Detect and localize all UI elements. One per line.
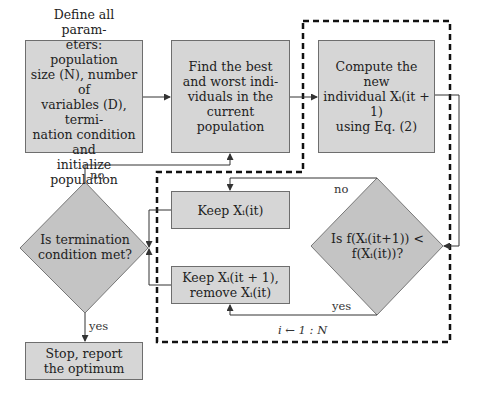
text-line: Keep Xᵢ(it) bbox=[198, 203, 264, 218]
text-line: viduals in the bbox=[176, 89, 285, 104]
no-label-compare: no bbox=[334, 182, 348, 196]
text-line: initialize population bbox=[30, 157, 138, 187]
text-line: Is termination bbox=[25, 232, 145, 247]
text-line: Define all param- bbox=[30, 7, 138, 37]
compare-question: Is f(Xᵢ(it+1)) < f(Xᵢ(it))? bbox=[315, 231, 440, 261]
keep-old-individual-box: Keep Xᵢ(it) bbox=[171, 191, 290, 229]
text-line: the optimum bbox=[44, 361, 125, 376]
text-line: Is f(Xᵢ(it+1)) < bbox=[315, 231, 440, 246]
find-best-worst-box: Find the best and worst indi- viduals in… bbox=[171, 40, 290, 153]
stop-report-box: Stop, report the optimum bbox=[25, 342, 143, 380]
text-line: size (N), number of bbox=[30, 67, 138, 97]
define-parameters-box: Define all param- eters: population size… bbox=[25, 40, 143, 153]
text-line: Compute the new bbox=[323, 59, 430, 89]
text-line: f(Xᵢ(it))? bbox=[315, 246, 440, 261]
text-line: Find the best bbox=[176, 59, 285, 74]
no-label-termination: no bbox=[90, 168, 104, 182]
termination-question: Is termination condition met? bbox=[25, 232, 145, 262]
keep-new-individual-box: Keep Xᵢ(it + 1), remove Xᵢ(it) bbox=[171, 266, 290, 304]
text-line: current population bbox=[176, 104, 285, 134]
text-line: Keep Xᵢ(it + 1), bbox=[182, 270, 278, 285]
text-line: using Eq. (2) bbox=[323, 119, 430, 134]
yes-label-compare: yes bbox=[332, 299, 351, 313]
text-line: condition met? bbox=[25, 247, 145, 262]
text-line: eters: population bbox=[30, 37, 138, 67]
text-line: individual Xᵢ(it + 1) bbox=[323, 89, 430, 119]
text-line: Stop, report bbox=[44, 346, 125, 361]
text-line: remove Xᵢ(it) bbox=[182, 285, 278, 300]
text-line: and worst indi- bbox=[176, 74, 285, 89]
yes-label-termination: yes bbox=[89, 319, 108, 333]
text-line: variables (D), termi- bbox=[30, 97, 138, 127]
compute-new-individual-box: Compute the new individual Xᵢ(it + 1) us… bbox=[318, 40, 435, 153]
loop-range-label: i ← 1 : N bbox=[278, 323, 327, 337]
text-line: nation condition and bbox=[30, 127, 138, 157]
